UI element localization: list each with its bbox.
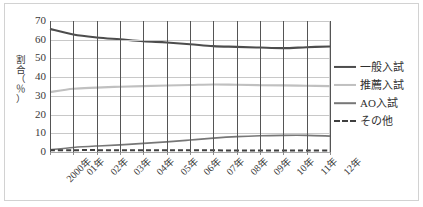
chart-figure: 割合（％） 706050403020100 2000年01年02年03年04年0… <box>0 0 423 207</box>
legend-line-swatch <box>334 62 356 72</box>
x-gridline <box>330 21 331 152</box>
x-tick-label: 11年 <box>318 156 339 177</box>
y-tick-label: 70 <box>20 15 46 26</box>
plot-area <box>50 21 330 152</box>
x-tick-mark <box>97 152 98 155</box>
x-tick-mark <box>307 152 308 155</box>
x-tick-mark <box>73 152 74 155</box>
x-tick-mark <box>190 152 191 155</box>
x-tick-label: 10年 <box>295 156 316 177</box>
x-tick-label: 09年 <box>272 156 293 177</box>
legend-line-glyph <box>334 102 356 104</box>
x-gridline <box>190 21 191 152</box>
x-tick-mark <box>260 152 261 155</box>
y-tick-label: 60 <box>20 34 46 45</box>
x-tick-label: 06年 <box>202 156 223 177</box>
x-gridline <box>283 21 284 152</box>
x-gridline <box>260 21 261 152</box>
x-tick-label: 02年 <box>109 156 130 177</box>
legend-line-glyph <box>334 84 356 86</box>
x-tick-label: 05年 <box>179 156 200 177</box>
x-tick-mark <box>237 152 238 155</box>
x-tick-mark <box>143 152 144 155</box>
x-gridline <box>50 21 51 152</box>
y-tick-label: 40 <box>20 71 46 82</box>
x-tick-label: 12年 <box>342 156 363 177</box>
x-tick-mark <box>167 152 168 155</box>
x-tick-mark <box>50 152 51 155</box>
x-gridline <box>97 21 98 152</box>
x-tick-label: 07年 <box>225 156 246 177</box>
x-tick-mark <box>283 152 284 155</box>
legend-item: その他 <box>334 112 418 130</box>
x-gridline <box>237 21 238 152</box>
legend-label: その他 <box>360 116 393 127</box>
legend-label: 推薦入試 <box>360 80 404 91</box>
x-gridline <box>73 21 74 152</box>
legend-line-swatch <box>334 98 356 108</box>
y-tick-label: 50 <box>20 52 46 63</box>
legend-line-swatch <box>334 80 356 90</box>
x-gridline <box>143 21 144 152</box>
x-tick-mark <box>120 152 121 155</box>
legend-line-swatch <box>334 116 356 126</box>
legend-item: 推薦入試 <box>334 76 418 94</box>
legend-line-glyph <box>334 66 356 68</box>
x-axis-ticks: 2000年01年02年03年04年05年06年07年08年09年10年11年12… <box>0 152 423 202</box>
legend-label: AO入試 <box>360 98 398 109</box>
legend-item: AO入試 <box>334 94 418 112</box>
x-tick-label: 03年 <box>132 156 153 177</box>
x-gridline <box>307 21 308 152</box>
x-tick-label: 04年 <box>155 156 176 177</box>
x-gridline <box>213 21 214 152</box>
y-tick-label: 10 <box>20 127 46 138</box>
legend-label: 一般入試 <box>360 62 404 73</box>
x-gridline <box>167 21 168 152</box>
y-tick-label: 30 <box>20 90 46 101</box>
x-gridline <box>120 21 121 152</box>
x-tick-mark <box>213 152 214 155</box>
x-tick-label: 08年 <box>249 156 270 177</box>
y-tick-label: 20 <box>20 109 46 120</box>
legend-item: 一般入試 <box>334 58 418 76</box>
x-tick-mark <box>330 152 331 155</box>
chart-legend: 一般入試推薦入試AO入試その他 <box>334 58 418 130</box>
legend-line-glyph <box>334 120 356 122</box>
